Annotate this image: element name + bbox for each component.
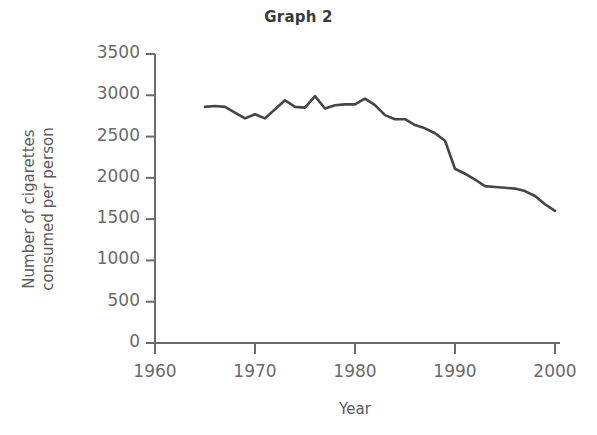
y-tick-label: 3000 bbox=[70, 83, 140, 103]
y-tick-label: 1500 bbox=[70, 207, 140, 227]
x-tick-label: 1970 bbox=[220, 361, 290, 381]
data-line bbox=[205, 96, 555, 211]
x-tick-label: 2000 bbox=[520, 361, 590, 381]
chart-figure: Graph 2 Number of cigarettes consumed pe… bbox=[0, 0, 597, 435]
data-series bbox=[205, 96, 555, 211]
y-tick-label: 1000 bbox=[70, 248, 140, 268]
y-tick-label: 3500 bbox=[70, 42, 140, 62]
x-tick-label: 1960 bbox=[120, 361, 190, 381]
y-tick-label: 2500 bbox=[70, 125, 140, 145]
y-tick-label: 0 bbox=[70, 331, 140, 351]
y-tick-marks bbox=[146, 54, 155, 343]
x-tick-marks bbox=[155, 343, 555, 354]
y-tick-label: 2000 bbox=[70, 166, 140, 186]
y-tick-label: 500 bbox=[70, 290, 140, 310]
axes bbox=[155, 54, 560, 343]
x-tick-label: 1990 bbox=[420, 361, 490, 381]
x-tick-label: 1980 bbox=[320, 361, 390, 381]
